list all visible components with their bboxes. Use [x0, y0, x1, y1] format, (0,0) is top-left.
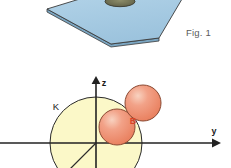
- figure-1-caption: Fig. 1: [186, 27, 211, 38]
- y-axis-arrowhead: [212, 139, 221, 148]
- y-axis-label: y: [211, 126, 216, 136]
- top-panel-group: [47, 0, 185, 47]
- bottom-panel-group: K B z y: [0, 76, 221, 168]
- sphere-b-label: B: [130, 116, 137, 126]
- z-axis-label: z: [102, 78, 107, 88]
- z-axis-arrowhead: [92, 76, 101, 84]
- circle-k-label: K: [53, 101, 60, 112]
- figure-root: K B z y Fig. 1: [0, 0, 231, 168]
- figure-canvas: K B z y: [0, 0, 231, 168]
